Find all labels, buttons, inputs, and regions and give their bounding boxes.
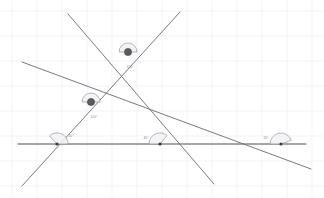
angle-mid-base-label: 40° bbox=[143, 136, 149, 140]
angle-arcs bbox=[49, 43, 291, 144]
angle-left-base-arc bbox=[49, 133, 68, 144]
left-base-vertex bbox=[55, 142, 58, 145]
angle-upper-intersection-label: 120° bbox=[126, 65, 134, 69]
angle-lower-intersection-label: 120° bbox=[90, 115, 98, 119]
angle-mid-base-arc bbox=[149, 133, 167, 144]
geometry-figure-canvas: 120°120°50°40°20° bbox=[0, 0, 324, 198]
transversal-line bbox=[22, 12, 180, 186]
mid-base-vertex bbox=[158, 142, 161, 145]
upper-intersection bbox=[124, 48, 131, 55]
angle-labels: 120°120°50°40°20° bbox=[68, 65, 269, 140]
angle-left-base-label: 50° bbox=[68, 134, 74, 138]
background-grid bbox=[0, 0, 324, 198]
lower-intersection bbox=[87, 98, 94, 105]
angle-right-base-label: 20° bbox=[263, 136, 269, 140]
right-base-vertex bbox=[279, 142, 282, 145]
geometry-svg: 120°120°50°40°20° bbox=[0, 0, 324, 198]
parallel-line-upper bbox=[22, 62, 311, 169]
angle-right-base-arc bbox=[270, 133, 291, 144]
